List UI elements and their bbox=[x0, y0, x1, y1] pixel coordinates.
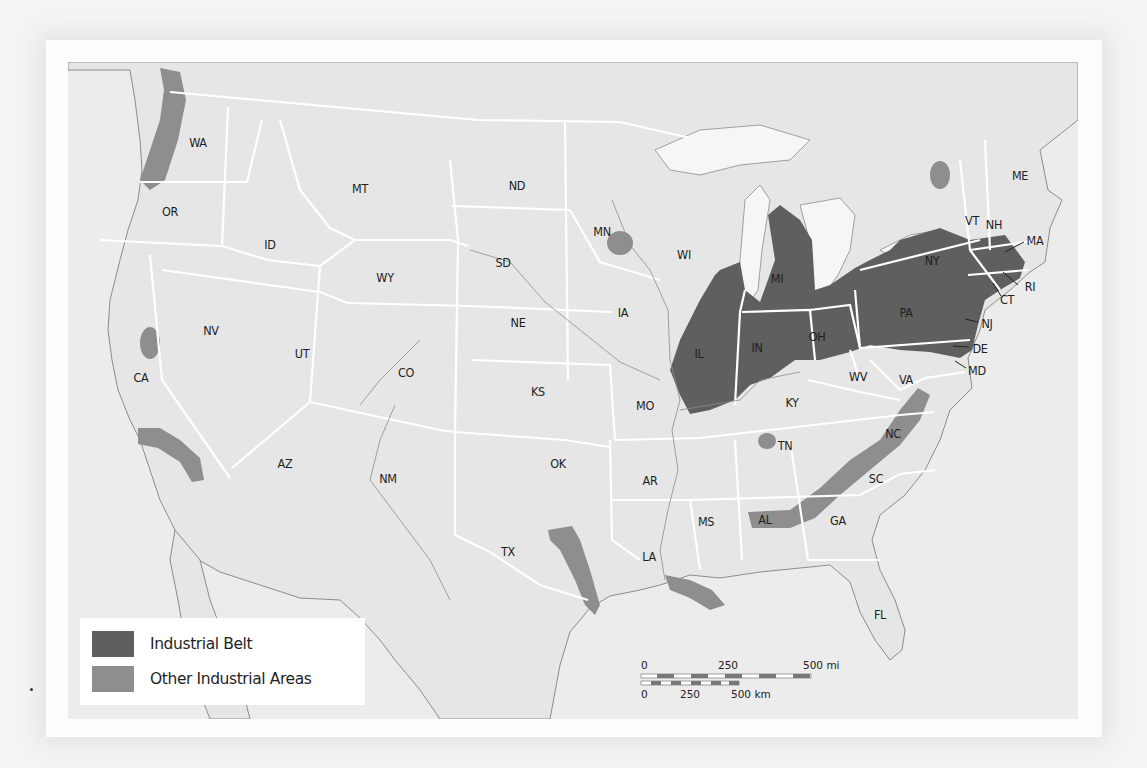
state-label-or: OR bbox=[162, 204, 178, 219]
state-label-wv: WV bbox=[849, 369, 867, 384]
scale-mi-500: 500 mi bbox=[803, 659, 840, 671]
state-label-va: VA bbox=[899, 372, 913, 387]
state-label-in: IN bbox=[751, 340, 762, 355]
state-label-ga: GA bbox=[830, 513, 846, 528]
state-label-ny: NY bbox=[925, 253, 940, 268]
state-label-sd: SD bbox=[495, 255, 510, 270]
state-label-wa: WA bbox=[189, 135, 207, 150]
state-label-tn: TN bbox=[778, 438, 793, 453]
state-label-la: LA bbox=[642, 549, 656, 564]
state-label-ca: CA bbox=[134, 370, 149, 385]
state-label-ri: RI bbox=[1025, 279, 1036, 294]
legend-swatch-other-industrial bbox=[92, 666, 134, 692]
legend-item-industrial-belt: Industrial Belt bbox=[92, 631, 252, 657]
state-label-az: AZ bbox=[278, 456, 293, 471]
state-label-co: CO bbox=[398, 365, 414, 380]
state-label-oh: OH bbox=[809, 329, 826, 344]
state-label-il: IL bbox=[695, 346, 704, 361]
stray-mark bbox=[30, 688, 33, 691]
state-label-wy: WY bbox=[376, 270, 393, 285]
state-label-tx: TX bbox=[501, 544, 515, 559]
state-label-fl: FL bbox=[874, 607, 886, 622]
legend-label: Other Industrial Areas bbox=[150, 670, 312, 688]
legend: Industrial Belt Other Industrial Areas bbox=[80, 618, 365, 705]
state-label-vt: VT bbox=[965, 213, 979, 228]
state-label-me: ME bbox=[1012, 168, 1028, 183]
state-label-pa: PA bbox=[899, 305, 912, 320]
state-label-ia: IA bbox=[618, 305, 628, 320]
state-label-ks: KS bbox=[531, 384, 545, 399]
legend-swatch-industrial-belt bbox=[92, 631, 134, 657]
state-label-ar: AR bbox=[643, 473, 658, 488]
state-label-mi: MI bbox=[771, 271, 783, 286]
state-label-mo: MO bbox=[636, 398, 654, 413]
state-label-nv: NV bbox=[203, 323, 219, 338]
state-label-ky: KY bbox=[785, 395, 798, 410]
state-label-nj: NJ bbox=[981, 316, 992, 331]
scale-km-0: 0 bbox=[641, 688, 648, 700]
state-label-nh: NH bbox=[986, 217, 1002, 232]
state-label-nd: ND bbox=[509, 178, 525, 193]
state-label-mt: MT bbox=[352, 181, 368, 196]
state-label-nc: NC bbox=[885, 426, 901, 441]
scale-km-250: 250 bbox=[680, 688, 700, 700]
legend-item-other-industrial: Other Industrial Areas bbox=[92, 666, 312, 692]
state-label-de: DE bbox=[972, 341, 987, 356]
state-label-ut: UT bbox=[295, 346, 310, 361]
scale-km-500: 500 km bbox=[731, 688, 771, 700]
legend-label: Industrial Belt bbox=[150, 635, 252, 653]
state-label-md: MD bbox=[968, 363, 986, 378]
state-label-nm: NM bbox=[379, 471, 397, 486]
state-label-ms: MS bbox=[698, 514, 714, 529]
state-label-ne: NE bbox=[511, 315, 526, 330]
state-label-al: AL bbox=[758, 512, 771, 527]
scale-mi-250: 250 bbox=[718, 659, 738, 671]
state-label-ok: OK bbox=[550, 456, 566, 471]
state-label-ma: MA bbox=[1027, 233, 1044, 248]
state-label-ct: CT bbox=[1000, 292, 1014, 307]
scale-mi-0: 0 bbox=[641, 659, 648, 671]
state-label-sc: SC bbox=[869, 471, 883, 486]
state-label-wi: WI bbox=[677, 247, 691, 262]
state-label-mn: MN bbox=[593, 224, 611, 239]
state-label-id: ID bbox=[264, 237, 275, 252]
